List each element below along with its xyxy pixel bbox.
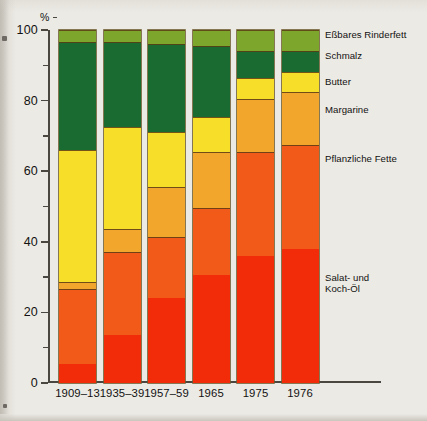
y-tick-label-80: 80 [24,94,38,108]
y-tick-label-40: 40 [24,235,38,249]
bar-segment-butter[interactable] [104,127,141,229]
y-tick-label-20: 20 [24,305,38,319]
bar-segment-pflanzliche-fette[interactable] [148,237,185,299]
bar-segment-schmalz[interactable] [59,42,96,150]
bar-segment-schmalz[interactable] [193,46,230,117]
bar-1965[interactable] [193,30,230,383]
legend-label-butter: Butter [325,77,351,88]
bar-segment-schmalz[interactable] [282,51,319,72]
page-registration-mark-bottom [3,404,7,408]
legend-label-pflanzliche: Pflanzliche Fette [325,154,397,165]
bar-1909-13[interactable] [59,30,96,383]
bar-segment-eßbares-rinderfett[interactable] [237,30,274,51]
bar-segment-butter[interactable] [193,117,230,152]
x-axis-label-5: 1976 [287,387,313,399]
y-tick-label-100: 100 [17,23,38,37]
page-left-edge-shadow [0,0,9,421]
bar-segment-pflanzliche-fette[interactable] [237,152,274,256]
x-axis-label-0: 1909–13 [55,387,100,399]
y-tick-major-80 [41,100,48,102]
bar-segment-eßbares-rinderfett[interactable] [59,30,96,42]
y-tick-major-0 [41,382,48,384]
bar-segment-salat--und-koch-öl[interactable] [282,249,319,383]
bar-segment-pflanzliche-fette[interactable] [59,289,96,363]
page-registration-mark-top [2,36,7,41]
bar-segment-margarine[interactable] [193,152,230,208]
bar-segment-eßbares-rinderfett[interactable] [104,30,141,42]
bar-segment-schmalz[interactable] [148,44,185,132]
bar-1975[interactable] [237,30,274,383]
chart-page: % 020406080100 1909–131935–391957–591965… [0,0,427,421]
y-tick-label-60: 60 [24,164,38,178]
plot-area: 020406080100 1909–131935–391957–59196519… [48,30,323,383]
x-axis-label-1: 1935–39 [100,387,145,399]
bar-segment-eßbares-rinderfett[interactable] [193,30,230,46]
y-axis-unit-label: % [40,11,49,23]
bar-segment-pflanzliche-fette[interactable] [193,208,230,275]
bar-segment-butter[interactable] [148,132,185,187]
bar-segment-salat--und-koch-öl[interactable] [148,298,185,383]
legend: Eßbares RinderfettSchmalzButterMargarine… [325,30,427,383]
bar-segment-butter[interactable] [237,78,274,99]
bar-segment-salat--und-koch-öl[interactable] [237,256,274,383]
bar-segment-salat--und-koch-öl[interactable] [104,335,141,383]
bar-segment-pflanzliche-fette[interactable] [104,252,141,335]
y-tick-major-100 [41,29,48,31]
bar-segment-butter[interactable] [59,150,96,282]
bar-segment-margarine[interactable] [148,187,185,236]
page-bottom-edge-shadow [0,414,427,421]
bar-segment-margarine[interactable] [104,229,141,252]
y-tick-major-40 [41,241,48,243]
legend-label-schmalz: Schmalz [325,51,362,62]
legend-label-salat: Salat- und Koch-Öl [325,273,369,294]
bar-1957-59[interactable] [148,30,185,383]
y-tick-label-0: 0 [31,376,38,390]
bar-segment-margarine[interactable] [282,92,319,145]
bar-segment-salat--und-koch-öl[interactable] [193,275,230,383]
x-axis-label-4: 1975 [243,387,269,399]
bar-group [48,30,323,383]
legend-label-margarine: Margarine [325,105,369,116]
bar-segment-schmalz[interactable] [104,42,141,127]
x-axis-label-2: 1957–59 [144,387,189,399]
bar-1935-39[interactable] [104,30,141,383]
bar-segment-butter[interactable] [282,72,319,91]
bar-segment-eßbares-rinderfett[interactable] [282,30,319,51]
bar-segment-eßbares-rinderfett[interactable] [148,30,185,44]
bar-segment-margarine[interactable] [59,282,96,289]
bar-segment-pflanzliche-fette[interactable] [282,145,319,249]
y-tick-major-20 [41,312,48,314]
bar-segment-margarine[interactable] [237,99,274,152]
legend-label-eßbares: Eßbares Rinderfett [325,30,406,41]
bar-segment-salat--und-koch-öl[interactable] [59,364,96,383]
x-axis-label-3: 1965 [198,387,224,399]
bar-segment-schmalz[interactable] [237,51,274,77]
bar-1976[interactable] [282,30,319,383]
y-tick-major-60 [41,170,48,172]
